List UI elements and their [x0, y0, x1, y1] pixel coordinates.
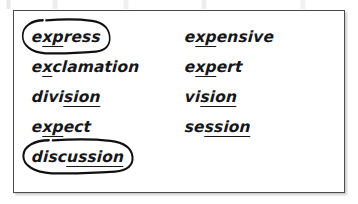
word-letters: se: [184, 118, 205, 136]
word-column-left: expressexclamationdivisionexpectdiscussi…: [31, 22, 186, 172]
word-row: discussion: [31, 142, 186, 172]
word-vision: vision: [184, 82, 238, 112]
underlined-letters: xp: [195, 28, 217, 47]
word-columns: expressexclamationdivisionexpectdiscussi…: [14, 11, 344, 192]
word-letters: ress: [63, 28, 101, 46]
word-letters: disc: [31, 148, 67, 166]
word-letters: e: [31, 28, 43, 46]
underlined-letters: xp: [42, 28, 64, 47]
underlined-letters: ssion: [204, 118, 251, 137]
word-row: session: [184, 112, 334, 142]
word-letters: ect: [63, 118, 91, 136]
word-letters: vi: [184, 88, 201, 106]
word-letters: ert: [216, 58, 243, 76]
word-row: division: [31, 82, 186, 112]
word-row: express: [31, 22, 186, 52]
word-letters: divi: [31, 88, 64, 106]
circled-word-discussion: discussion: [31, 142, 123, 172]
word-letters: e: [184, 58, 196, 76]
word-division: division: [31, 82, 101, 112]
word-letters: e: [184, 28, 196, 46]
word-discussion: discussion: [31, 142, 125, 172]
page-root: expressexclamationdivisionexpectdiscussi…: [0, 0, 358, 204]
word-expensive: expensive: [184, 22, 275, 52]
word-column-right: expensiveexpertvisionsession: [184, 22, 334, 142]
underlined-letters: sion: [63, 88, 101, 107]
word-row: vision: [184, 82, 334, 112]
underlined-letters: xp: [42, 118, 64, 137]
underlined-letters: xp: [195, 58, 217, 77]
word-exclamation: exclamation: [31, 52, 140, 82]
underlined-letters: sion: [200, 88, 238, 107]
word-expect: expect: [31, 112, 92, 142]
circled-word-express: express: [31, 22, 100, 52]
scan-noise-artifact: [0, 0, 358, 9]
word-row: expert: [184, 52, 334, 82]
word-letters: e: [31, 58, 43, 76]
word-row: exclamation: [31, 52, 186, 82]
word-expert: expert: [184, 52, 243, 82]
word-row: expensive: [184, 22, 334, 52]
word-list-box: expressexclamationdivisionexpectdiscussi…: [13, 10, 345, 193]
word-express: express: [31, 22, 102, 52]
underlined-letters: ussion: [66, 148, 124, 167]
word-letters: ensive: [216, 28, 274, 46]
word-letters: clamation: [52, 58, 140, 76]
word-letters: e: [31, 118, 43, 136]
word-session: session: [184, 112, 251, 142]
word-row: expect: [31, 112, 186, 142]
